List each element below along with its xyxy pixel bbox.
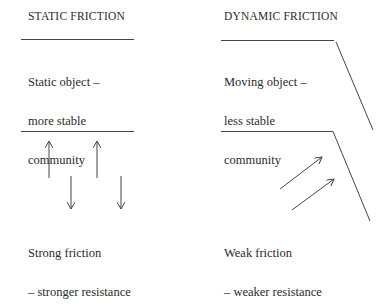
text-line: Strong friction <box>28 247 131 260</box>
text-line: more stable <box>28 115 100 128</box>
text-line: – stronger resistance <box>28 286 131 299</box>
dynamic-upper-text: Moving object – less stable community <box>224 50 307 193</box>
static-upper-text: Static object – more stable community <box>28 50 100 193</box>
text-line: – weaker resistance <box>224 286 331 299</box>
dynamic-friction-heading: DYNAMIC FRICTION <box>224 10 338 22</box>
dynamic-top-slope-line <box>336 42 373 130</box>
text-line: Moving object – <box>224 76 307 89</box>
dynamic-lower-text: Weak friction – weaker resistance to pre… <box>224 221 331 307</box>
static-lower-text: Strong friction – stronger resistance to… <box>28 221 131 307</box>
text-line: Weak friction <box>224 247 331 260</box>
text-line: less stable <box>224 115 307 128</box>
text-line: community <box>224 154 307 167</box>
friction-diagram: STATIC FRICTION Static object – more sta… <box>0 0 388 307</box>
dynamic-bottom-slope-line <box>333 132 370 222</box>
text-line: community <box>28 154 100 167</box>
text-line: Static object – <box>28 76 100 89</box>
static-friction-heading: STATIC FRICTION <box>28 10 125 22</box>
